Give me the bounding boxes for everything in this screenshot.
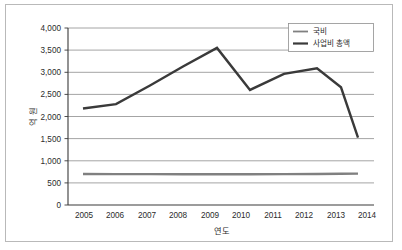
series-line-total: [83, 48, 358, 138]
y-tick-label-3500: 3,500: [41, 46, 62, 55]
legend-label-total: 사업비 총액: [313, 38, 350, 48]
x-tick-label-2008: 2008: [169, 211, 188, 220]
line-chart: 4,000 3,500 3,000 2,500 2,000 1,500 1,00…: [0, 0, 402, 250]
y-axis-title: 억 원: [28, 107, 38, 125]
y-tick-label-2500: 2,500: [41, 90, 62, 99]
y-tick-label-500: 500: [47, 179, 61, 188]
chart-container: 4,000 3,500 3,000 2,500 2,000 1,500 1,00…: [0, 0, 402, 250]
x-axis-title: 연도: [214, 227, 230, 236]
x-tick-label-2005: 2005: [75, 211, 94, 220]
x-tick-label-2014: 2014: [358, 211, 377, 220]
chart-legend: 국비 사업비 총액: [289, 24, 374, 52]
legend-label-gukbi: 국비: [313, 27, 327, 36]
x-tick-label-2013: 2013: [327, 211, 346, 220]
x-tick-label-2011: 2011: [264, 211, 282, 220]
x-tick-label-2009: 2009: [201, 211, 220, 220]
y-tick-label-2000: 2,000: [41, 113, 62, 122]
y-tick-label-4000: 4,000: [41, 24, 62, 33]
y-tick-label-0: 0: [56, 201, 61, 210]
series-line-gukbi: [83, 174, 358, 175]
x-tick-label-2012: 2012: [295, 211, 314, 220]
x-axis-tick-labels: 2005 2006 2007 2008 2009 2010 2011 2012 …: [75, 211, 377, 220]
y-tick-label-1000: 1,000: [41, 157, 62, 166]
x-tick-label-2007: 2007: [138, 211, 157, 220]
y-tick-label-3000: 3,000: [41, 68, 62, 77]
x-tick-label-2006: 2006: [106, 211, 125, 220]
y-axis-tick-labels: 4,000 3,500 3,000 2,500 2,000 1,500 1,00…: [41, 24, 62, 210]
y-tick-label-1500: 1,500: [41, 135, 62, 144]
x-tick-label-2010: 2010: [232, 211, 251, 220]
